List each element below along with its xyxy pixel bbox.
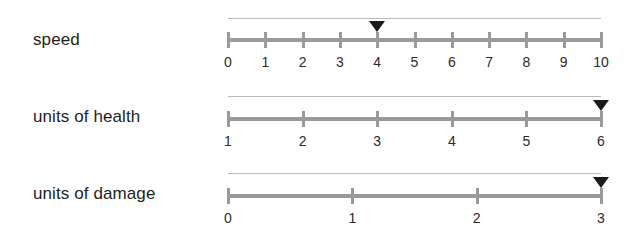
slider-tick[interactable] <box>227 111 230 127</box>
slider-tick[interactable] <box>600 111 603 127</box>
slider-tick[interactable] <box>600 188 603 204</box>
slider-tick-label: 9 <box>560 55 568 69</box>
slider-value-marker[interactable] <box>593 177 609 188</box>
slider-tick[interactable] <box>525 32 528 48</box>
slider-hairline <box>228 173 601 174</box>
slider-tick[interactable] <box>351 188 354 204</box>
slider-tick[interactable] <box>264 32 267 48</box>
slider-tick[interactable] <box>227 32 230 48</box>
slider-tick-label: 2 <box>299 55 307 69</box>
slider-tick[interactable] <box>525 111 528 127</box>
slider-label: units of health <box>33 108 140 125</box>
slider-tick-label: 3 <box>373 134 381 148</box>
slider-tick[interactable] <box>563 32 566 48</box>
slider-tick[interactable] <box>451 111 454 127</box>
slider-tick-label: 8 <box>522 55 530 69</box>
slider-hairline <box>228 18 601 19</box>
slider-tick[interactable] <box>600 32 603 48</box>
slider-tick[interactable] <box>339 32 342 48</box>
slider-track[interactable] <box>228 194 601 198</box>
slider-value-marker[interactable] <box>593 100 609 111</box>
slider-tick-label: 2 <box>299 134 307 148</box>
slider-tick-label: 1 <box>261 55 269 69</box>
slider-tick[interactable] <box>451 32 454 48</box>
slider-tick-label: 7 <box>485 55 493 69</box>
slider-tick[interactable] <box>488 32 491 48</box>
slider-tick-label: 4 <box>373 55 381 69</box>
slider-tick[interactable] <box>302 32 305 48</box>
slider-tick[interactable] <box>414 32 417 48</box>
slider-tick-label: 5 <box>411 55 419 69</box>
slider-track[interactable] <box>228 117 601 121</box>
slider-label: units of damage <box>33 185 155 202</box>
slider-tick[interactable] <box>227 188 230 204</box>
slider-tick[interactable] <box>376 32 379 48</box>
slider-tick-label: 6 <box>597 134 605 148</box>
slider-value-marker[interactable] <box>369 21 385 32</box>
slider-tick-label: 5 <box>522 134 530 148</box>
slider-tick-label: 3 <box>336 55 344 69</box>
slider-hairline <box>228 96 601 97</box>
slider-tick-label: 4 <box>448 134 456 148</box>
slider-tick-label: 1 <box>348 211 356 225</box>
slider-tick-label: 0 <box>224 55 232 69</box>
slider-tick-label: 10 <box>593 55 609 69</box>
slider-label: speed <box>33 31 80 48</box>
slider-tick-label: 1 <box>224 134 232 148</box>
slider-tick-label: 3 <box>597 211 605 225</box>
slider-tick-label: 6 <box>448 55 456 69</box>
slider-tick-label: 2 <box>473 211 481 225</box>
slider-tick[interactable] <box>376 111 379 127</box>
slider-tick[interactable] <box>476 188 479 204</box>
slider-tick-label: 0 <box>224 211 232 225</box>
slider-tick[interactable] <box>302 111 305 127</box>
